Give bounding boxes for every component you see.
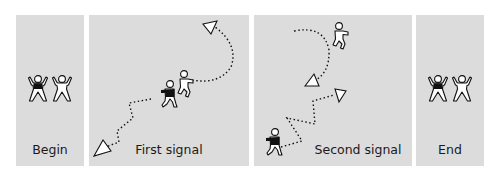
direction-arrow-icon	[203, 21, 217, 34]
dark-player-icon	[429, 76, 448, 101]
dark-player-icon	[29, 76, 48, 101]
light-player-icon	[453, 76, 472, 101]
panel-label-first-signal: First signal	[89, 142, 249, 157]
movement-path	[192, 27, 233, 81]
light-player-icon	[178, 71, 193, 97]
panel-first-signal: First signal	[89, 15, 249, 166]
movement-path	[294, 30, 329, 81]
movement-path	[281, 95, 334, 147]
light-player-icon	[333, 23, 348, 49]
panel-second-signal: Second signal	[254, 15, 412, 166]
panel-label-second-signal: Second signal	[304, 142, 412, 157]
light-player-icon	[53, 76, 72, 101]
dark-player-icon	[266, 129, 282, 155]
direction-arrow-icon	[305, 74, 319, 86]
movement-path	[103, 99, 151, 148]
dark-player-icon	[161, 81, 177, 107]
direction-arrow-icon	[335, 89, 346, 102]
panel-end: End	[416, 15, 484, 166]
panel-label-begin: Begin	[16, 142, 84, 157]
panel-begin: Begin	[16, 15, 84, 166]
panel-label-end: End	[416, 142, 484, 157]
